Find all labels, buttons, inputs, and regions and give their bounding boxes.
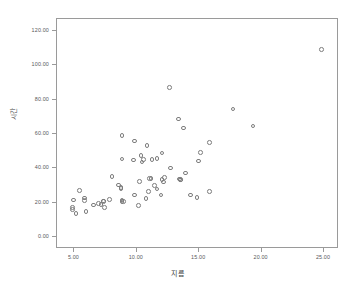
x-axis-tick-mark [261, 248, 262, 252]
x-axis-tick-label: 5.00 [68, 254, 79, 260]
x-axis-tick-mark [198, 248, 199, 252]
x-axis-tick-mark [136, 248, 137, 252]
y-axis-tick-label: 100.00 [32, 61, 49, 67]
x-axis-tick-label: 20.00 [254, 254, 268, 260]
x-axis-title: 지름 [0, 268, 356, 278]
scatter-plot-chart: 0.0020.0040.0060.0080.00100.00120.00 5.0… [0, 0, 356, 289]
y-axis-tick-label: 40.00 [35, 164, 49, 170]
y-axis-tick-label: 80.00 [35, 96, 49, 102]
x-axis-tick-mark [73, 248, 74, 252]
x-axis-tick-label: 10.00 [129, 254, 143, 260]
x-axis-tick-label: 15.00 [191, 254, 205, 260]
x-axis-tick-label: 25.00 [316, 254, 330, 260]
y-axis-tick-label: 120.00 [32, 27, 49, 33]
y-axis-tick-label: 60.00 [35, 130, 49, 136]
y-axis-tick-label: 0.00 [38, 233, 49, 239]
plot-area [56, 18, 338, 248]
y-axis-title: 시간 [8, 107, 18, 120]
y-axis-tick-label: 20.00 [35, 199, 49, 205]
x-axis-tick-mark [323, 248, 324, 252]
